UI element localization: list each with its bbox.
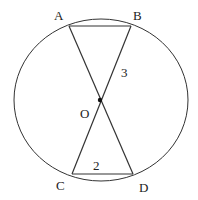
label-a: A xyxy=(54,8,64,23)
label-o: O xyxy=(80,106,89,121)
length-cd: 2 xyxy=(93,158,100,173)
geometry-diagram: A B C D O 3 2 xyxy=(0,0,198,200)
label-c: C xyxy=(56,178,65,193)
diagram-svg: A B C D O 3 2 xyxy=(0,0,198,200)
length-ob: 3 xyxy=(121,65,128,80)
label-b: B xyxy=(133,8,142,23)
label-d: D xyxy=(139,180,148,195)
point-o-dot xyxy=(98,98,102,102)
